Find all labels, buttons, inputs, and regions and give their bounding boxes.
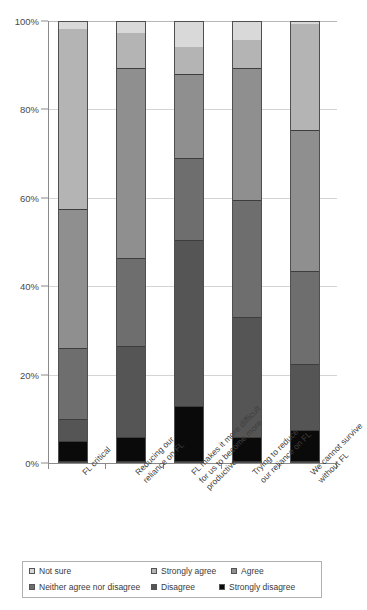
bar-segment [117,259,145,347]
y-tick-label-80: 80% [20,104,39,115]
bar-segment [233,201,261,318]
bar-segment [117,21,145,33]
legend-item: Strongly agree [151,566,216,576]
bar-segment [59,349,87,420]
legend-swatch-icon [29,568,35,574]
bar-segment [291,21,319,24]
bar-column [232,21,262,463]
bars-layer [48,21,337,463]
y-tick-mark-20 [41,374,48,375]
bar-segment [175,21,203,47]
legend-swatch-icon [231,568,237,574]
bar-column [174,21,204,463]
legend-label: Strongly disagree [229,582,295,592]
legend-grid: Not sureStrongly agreeAgreeNeither agree… [23,562,321,597]
legend-swatch-icon [151,584,157,590]
legend-item: Agree [231,566,264,576]
bar-segment [233,21,261,40]
y-tick-label-60: 60% [20,192,39,203]
bar-segment [175,47,203,76]
y-tick-mark-0 [41,463,48,464]
legend-label: Neither agree nor disagree [39,582,140,592]
legend-item: Neither agree nor disagree [29,582,140,592]
bar-segment [175,75,203,159]
y-tick-mark-60 [41,197,48,198]
y-axis: 100% 80% 60% 40% 20% 0% [0,0,48,480]
bar-segment [175,241,203,407]
bar-segment [117,69,145,259]
legend-label: Agree [241,566,264,576]
bar-segment [233,40,261,69]
bar-segment [175,159,203,241]
bar-segment [59,442,87,462]
bar-segment [59,420,87,442]
y-tick-label-20: 20% [20,369,39,380]
bar-segment [117,438,145,462]
bar-segment [117,33,145,68]
y-tick-mark-80 [41,109,48,110]
bar-segment [59,210,87,349]
legend-label: Strongly agree [161,566,216,576]
legend: Not sureStrongly agreeAgreeNeither agree… [22,561,322,598]
bar-segment [117,347,145,438]
y-tick-label-40: 40% [20,281,39,292]
legend-swatch-icon [29,584,35,590]
legend-swatch-icon [219,584,225,590]
legend-item: Disagree [151,582,195,592]
bar-column [290,21,320,463]
plot-area: 100% 80% 60% 40% 20% 0% [0,0,345,480]
legend-swatch-icon [151,568,157,574]
bar-segment [291,131,319,272]
bar-segment [291,365,319,431]
legend-label: Disagree [161,582,195,592]
x-axis-category-labels: FL criticalReducing ourreliance on FLFL … [0,466,345,550]
legend-label: Not sure [39,566,71,576]
legend-item: Not sure [29,566,71,576]
y-tick-mark-40 [41,286,48,287]
bar-segment [59,29,87,210]
bar-segment [59,21,87,29]
bar-segment [291,24,319,130]
y-tick-label-100: 100% [15,16,39,27]
bar-segment [291,272,319,365]
bar-column [116,21,146,463]
legend-item: Strongly disagree [219,582,295,592]
bar-column [58,21,88,463]
bar-segment [233,69,261,202]
y-tick-mark-100 [41,21,48,22]
